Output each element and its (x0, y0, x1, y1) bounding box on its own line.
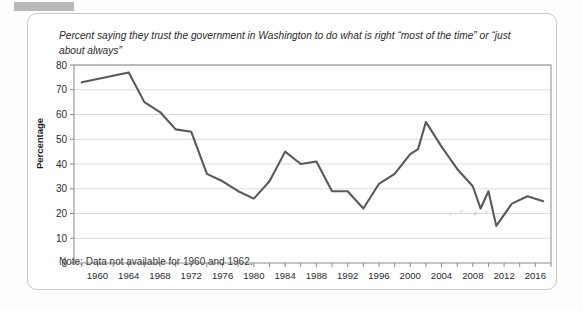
chart-card: Percent saying they trust the government… (27, 13, 557, 290)
x-tick-label: 1972 (181, 270, 202, 281)
x-tick-label: 2000 (400, 270, 421, 281)
y-tick-label: 50 (56, 134, 68, 145)
x-tick-label: 1968 (149, 270, 170, 281)
data-series (82, 72, 543, 225)
data-line (82, 72, 543, 225)
y-axis-ticks: 01020304050607080 (56, 60, 74, 269)
x-tick-label: 2016 (525, 270, 546, 281)
line-chart-svg: 01020304050607080 1960196419681972197619… (28, 14, 558, 291)
x-tick-label: 1992 (337, 270, 358, 281)
plot-area: 01020304050607080 1960196419681972197619… (28, 14, 558, 291)
y-tick-label: 60 (56, 109, 68, 120)
page-root: Percent saying they trust the government… (0, 0, 583, 311)
scan-artifact (443, 207, 505, 219)
x-tick-label: 1960 (87, 270, 108, 281)
y-tick-label: 30 (56, 183, 68, 194)
x-tick-label: 1984 (274, 270, 296, 281)
x-tick-label: 1976 (212, 270, 233, 281)
chart-note: Note: Data not available for 1960 and 19… (59, 256, 252, 267)
x-tick-label: 2004 (431, 270, 453, 281)
y-tick-label: 70 (56, 84, 68, 95)
x-tick-label: 1996 (368, 270, 389, 281)
x-tick-label: 2008 (462, 270, 483, 281)
x-tick-label: 1988 (306, 270, 327, 281)
page-header-tab (14, 2, 74, 11)
y-tick-label: 80 (56, 60, 68, 71)
x-tick-label: 2012 (493, 270, 514, 281)
y-tick-label: 40 (56, 159, 68, 170)
x-tick-label: 1980 (243, 270, 264, 281)
y-tick-label: 20 (56, 208, 68, 219)
y-tick-label: 10 (56, 233, 68, 244)
x-tick-label: 1964 (118, 270, 140, 281)
